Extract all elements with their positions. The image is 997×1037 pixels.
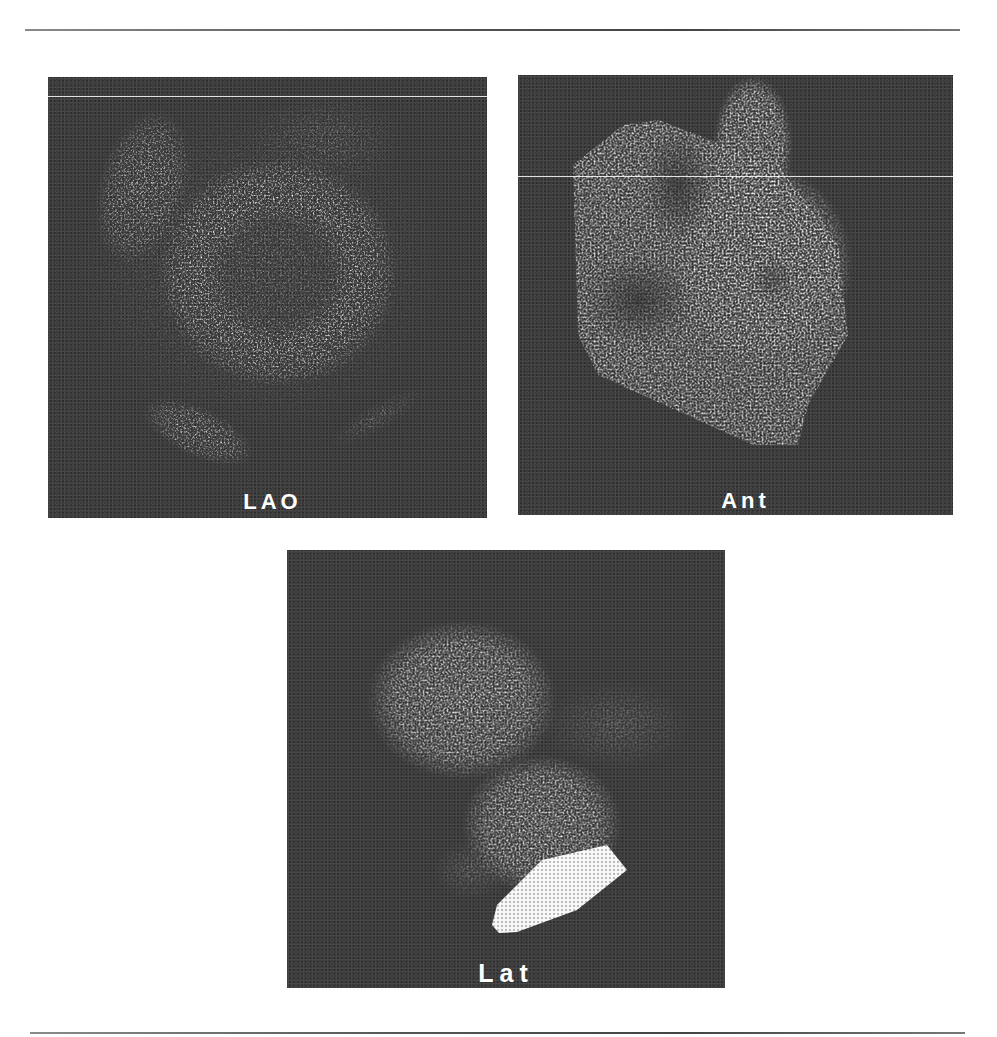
ant-scan-graphic	[518, 75, 953, 515]
scan-image-ant: Ant	[518, 75, 953, 515]
panel-label-lat: Lat	[287, 959, 725, 988]
top-rule	[25, 29, 960, 31]
panel-label-lao: LAO	[48, 489, 487, 515]
scan-image-lao: LAO	[48, 77, 487, 518]
panel-label-ant: Ant	[518, 488, 953, 514]
lat-scan-graphic	[287, 550, 725, 988]
bottom-rule	[30, 1032, 965, 1034]
scan-artifact-line	[48, 96, 487, 97]
scan-artifact-line	[518, 176, 953, 177]
scan-image-lat: Lat	[287, 550, 725, 988]
lao-scan-graphic	[48, 77, 487, 518]
